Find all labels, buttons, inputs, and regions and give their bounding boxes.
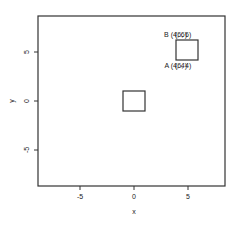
x-tick-label: 0	[132, 193, 136, 200]
x-tick-label: 5	[186, 193, 190, 200]
y-tick-label: -5	[23, 147, 30, 153]
y-axis-label: y	[8, 99, 16, 103]
corner-square	[176, 40, 198, 60]
x-tick-label: -5	[77, 193, 83, 200]
chart: -5 0 5 x 5 0 -5 y B (4, 6) (6, 6) A (4, …	[0, 0, 239, 227]
y-tick-label: 0	[23, 99, 30, 103]
point-b-label-overlap: (6, 6)	[175, 31, 191, 39]
y-tick-label: 5	[23, 50, 30, 54]
x-axis-label: x	[132, 208, 136, 215]
point-a-label-overlap: (6, 4)	[175, 62, 191, 70]
plot-frame	[38, 16, 225, 186]
x-axis	[80, 186, 188, 190]
center-square	[123, 91, 145, 111]
